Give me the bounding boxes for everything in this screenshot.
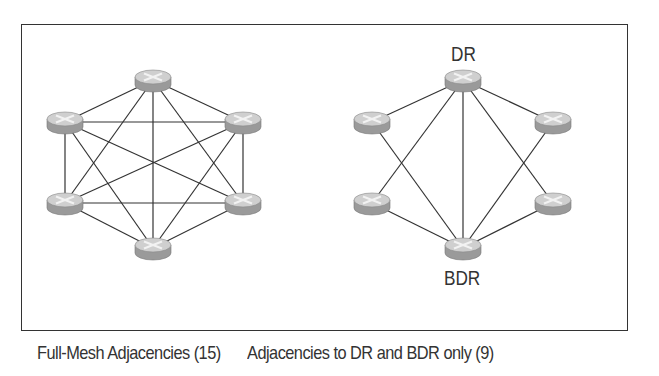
- router-icon: [445, 238, 481, 260]
- router-icon: [445, 70, 481, 92]
- router-icon: [354, 193, 390, 215]
- full-mesh-links: [65, 80, 243, 248]
- bdr-label: BDR: [444, 268, 480, 288]
- router-icon: [354, 112, 390, 134]
- router-icon: [225, 112, 261, 134]
- router-icon: [135, 238, 171, 260]
- full-mesh-caption: Full-Mesh Adjacencies (15): [37, 343, 221, 363]
- dr-bdr-links: [372, 80, 553, 248]
- router-icon: [535, 112, 571, 134]
- dr-bdr-caption: Adjacencies to DR and BDR only (9): [247, 343, 494, 363]
- router-icon: [47, 112, 83, 134]
- dr-label: DR: [451, 44, 476, 64]
- router-icon: [535, 193, 571, 215]
- ospf-adjacency-diagram: [0, 0, 659, 376]
- router-icon: [225, 193, 261, 215]
- router-icon: [135, 70, 171, 92]
- router-icon: [47, 193, 83, 215]
